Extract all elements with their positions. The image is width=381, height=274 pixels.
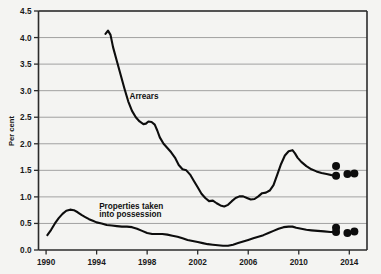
x-tick-label: 2006 <box>239 258 258 267</box>
y-tick-label: 2.0 <box>20 140 32 149</box>
y-tick-label: 2.5 <box>20 113 32 122</box>
forecast-dots <box>332 162 358 237</box>
y-tick-label: 0.0 <box>20 246 32 255</box>
data-series <box>47 31 335 246</box>
series-annotation: Arrears <box>129 92 159 101</box>
x-tick-label: 1990 <box>37 258 56 267</box>
series-annotation: into possession <box>99 210 161 219</box>
axis-frame <box>39 11 368 250</box>
y-tick-label: 1.5 <box>20 166 32 175</box>
y-tick-label: 1.0 <box>20 193 32 202</box>
forecast-dot <box>343 229 351 237</box>
mortgage-arrears-possessions-chart: 0.00.51.01.52.02.53.03.54.04.5 199019941… <box>0 0 381 274</box>
forecast-dot <box>332 172 340 180</box>
y-axis-title: Per cent <box>7 116 16 146</box>
x-tick-label: 1994 <box>88 258 107 267</box>
y-tick-label: 3.5 <box>20 60 32 69</box>
y-axis-ticks: 0.00.51.01.52.02.53.03.54.04.5 <box>20 7 38 255</box>
forecast-dot <box>343 170 351 178</box>
chart-figure: 0.00.51.01.52.02.53.03.54.04.5 199019941… <box>0 0 381 274</box>
x-tick-label: 2002 <box>189 258 208 267</box>
y-tick-label: 0.5 <box>20 219 32 228</box>
y-tick-label: 3.0 <box>20 87 32 96</box>
series-line <box>47 210 335 246</box>
forecast-dot <box>332 162 340 170</box>
forecast-dot <box>350 170 358 178</box>
forecast-dot <box>350 227 358 235</box>
y-tick-label: 4.0 <box>20 34 32 43</box>
x-tick-label: 2010 <box>290 258 309 267</box>
gridlines <box>39 11 368 223</box>
y-tick-label: 4.5 <box>20 7 32 16</box>
series-line <box>105 31 335 207</box>
forecast-dot <box>332 228 340 236</box>
x-tick-label: 2014 <box>340 258 359 267</box>
x-axis-ticks: 1990199419982002200620102014 <box>37 250 359 267</box>
x-tick-label: 1998 <box>138 258 157 267</box>
